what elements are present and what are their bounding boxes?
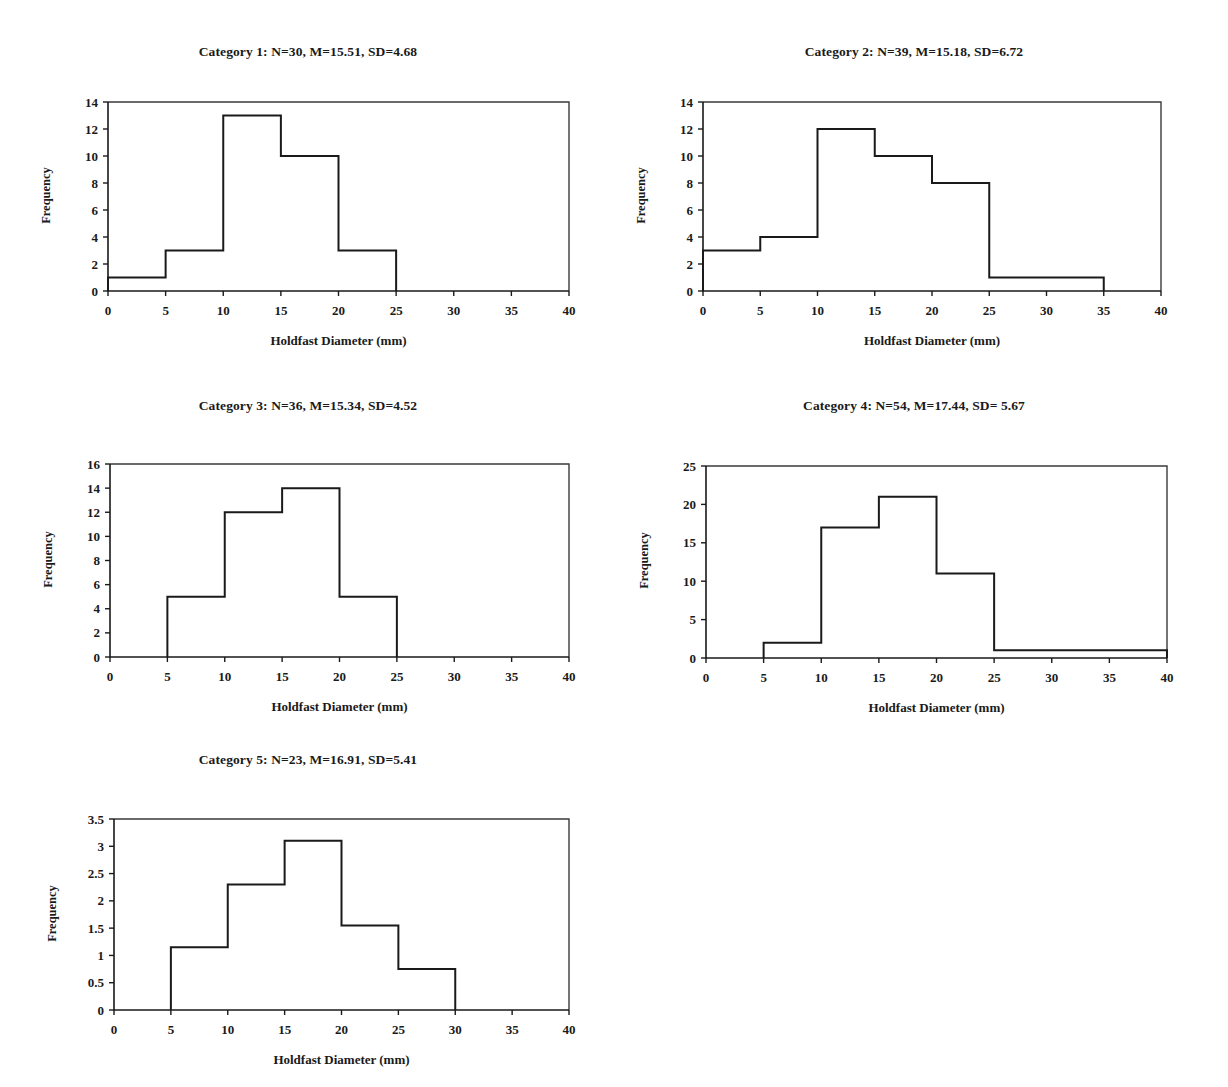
x-axis-ticks-category-2: 0510152025303540 [700,291,1168,318]
y-tick-label: 2 [92,257,99,272]
x-tick-label: 30 [447,303,460,318]
x-tick-label: 15 [868,303,882,318]
histogram-bars-category-2 [703,129,1104,291]
x-tick-label: 20 [926,303,939,318]
x-tick-label: 40 [563,303,576,318]
x-axis-label-category-4: Holdfast Diameter (mm) [606,700,1228,716]
y-tick-label: 16 [87,457,101,472]
y-tick-label: 3.5 [88,812,105,827]
x-tick-label: 25 [988,670,1002,685]
y-tick-label: 2 [98,893,105,908]
histogram-bars-category-1 [108,116,396,292]
y-tick-label: 5 [690,612,697,627]
x-tick-label: 5 [164,669,171,684]
y-tick-label: 3 [98,839,105,854]
y-tick-label: 1 [98,948,105,963]
y-tick-label: 2 [687,257,694,272]
y-tick-label: 10 [85,149,98,164]
x-axis-ticks-category-4: 0510152025303540 [703,658,1174,685]
x-axis-ticks-category-1: 0510152025303540 [105,291,576,318]
y-tick-label: 6 [94,577,101,592]
x-tick-label: 10 [811,303,824,318]
x-tick-label: 15 [274,303,288,318]
chart-panel-category-5: Category 5: N=23, M=16.91, SD=5.41Freque… [8,752,608,1087]
x-tick-label: 15 [276,669,290,684]
y-tick-label: 0 [98,1003,105,1018]
x-tick-label: 25 [392,1022,406,1037]
plot-wrapper-category-3: 05101520253035400246810121416 [8,398,599,707]
x-tick-label: 40 [1161,670,1174,685]
histogram-bars-category-3 [167,488,397,657]
y-tick-label: 1.5 [88,921,105,936]
y-tick-label: 10 [680,149,693,164]
x-tick-label: 0 [107,669,114,684]
chart-panel-category-2: Category 2: N=39, M=15.18, SD=6.72Freque… [608,44,1220,374]
y-tick-label: 0 [92,284,99,299]
x-tick-label: 10 [218,669,231,684]
plot-area-category-1: 051015202530354002468101214 [8,44,599,341]
y-axis-ticks-category-3: 0246810121416 [87,457,110,665]
plot-wrapper-category-5: 051015202530354000.511.522.533.5 [8,752,599,1060]
y-tick-label: 2 [94,625,101,640]
plot-area-category-4: 05101520253035400510152025 [608,398,1197,708]
y-tick-label: 14 [680,95,694,110]
x-tick-label: 25 [390,303,404,318]
y-axis-ticks-category-4: 0510152025 [683,459,706,666]
y-axis-ticks-category-2: 02468101214 [680,95,703,299]
plot-area-category-2: 051015202530354002468101214 [608,44,1191,341]
x-tick-label: 10 [217,303,230,318]
x-tick-label: 35 [1097,303,1111,318]
x-axis-ticks-category-3: 0510152025303540 [107,657,576,684]
plot-frame-category-2 [703,102,1161,291]
chart-panel-category-3: Category 3: N=36, M=15.34, SD=4.52Freque… [8,398,608,738]
x-tick-label: 25 [390,669,404,684]
x-tick-label: 30 [448,669,461,684]
histogram-bars-category-5 [171,841,455,1010]
y-tick-label: 4 [94,601,101,616]
x-tick-label: 25 [983,303,997,318]
plot-area-category-5: 051015202530354000.511.522.533.5 [8,752,599,1060]
x-tick-label: 35 [505,669,519,684]
x-tick-label: 5 [162,303,169,318]
x-tick-label: 35 [505,303,519,318]
x-tick-label: 15 [278,1022,292,1037]
x-tick-label: 20 [930,670,943,685]
y-tick-label: 0 [94,650,101,665]
y-tick-label: 4 [92,230,99,245]
x-tick-label: 5 [760,670,767,685]
x-tick-label: 40 [1155,303,1168,318]
x-tick-label: 30 [1040,303,1053,318]
x-tick-label: 5 [757,303,764,318]
y-axis-ticks-category-5: 00.511.522.533.5 [88,812,114,1018]
x-tick-label: 30 [1045,670,1058,685]
y-tick-label: 0 [690,651,697,666]
y-tick-label: 12 [87,505,100,520]
plot-wrapper-category-1: 051015202530354002468101214 [8,44,599,341]
y-tick-label: 8 [94,553,101,568]
x-tick-label: 0 [703,670,710,685]
x-tick-label: 35 [506,1022,520,1037]
y-tick-label: 4 [687,230,694,245]
y-tick-label: 10 [87,529,100,544]
x-axis-label-category-3: Holdfast Diameter (mm) [10,699,669,715]
x-tick-label: 35 [1103,670,1117,685]
x-tick-label: 40 [563,669,576,684]
y-tick-label: 6 [687,203,694,218]
x-tick-label: 20 [333,669,346,684]
histogram-bars-category-4 [764,497,1167,658]
x-tick-label: 30 [449,1022,462,1037]
y-tick-label: 2.5 [88,866,105,881]
chart-panel-category-4: Category 4: N=54, M=17.44, SD= 5.67Frequ… [608,398,1220,738]
y-tick-label: 20 [683,497,696,512]
y-tick-label: 25 [683,459,697,474]
y-tick-label: 0 [687,284,694,299]
y-tick-label: 6 [92,203,99,218]
x-tick-label: 40 [563,1022,576,1037]
y-tick-label: 14 [85,95,99,110]
chart-panel-category-1: Category 1: N=30, M=15.51, SD=4.68Freque… [8,44,608,374]
x-tick-label: 20 [332,303,345,318]
plot-axes-category-2 [703,102,1161,291]
x-tick-label: 0 [700,303,707,318]
y-tick-label: 8 [687,176,694,191]
x-tick-label: 10 [221,1022,234,1037]
